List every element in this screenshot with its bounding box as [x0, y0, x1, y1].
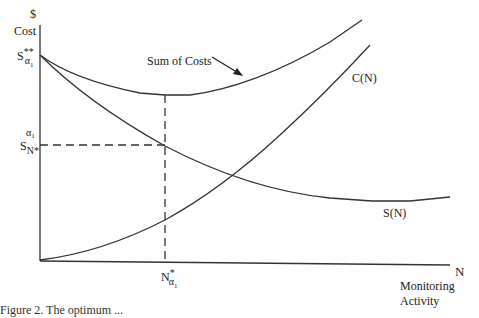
c-n-label: C(N) [352, 72, 377, 84]
x-axis-label: N [455, 265, 464, 278]
arrow-head-icon [233, 68, 243, 76]
y-tick-s-n-star-alpha: α1 [26, 128, 35, 138]
x-axis-desc-line1: Monitoring [400, 280, 455, 292]
c-n-curve [40, 45, 370, 260]
s-n-curve [40, 55, 450, 201]
y-axis-label: Cost [14, 25, 36, 37]
y-tick-s-double-star: S**α1 [17, 50, 33, 62]
x-tick-n-star: N*α1 [161, 271, 177, 283]
s-n-label: S(N) [383, 207, 406, 219]
sum-of-costs-label: Sum of Costs [147, 55, 212, 67]
figure-caption: Figure 2. The optimum ... [0, 303, 123, 318]
y-unit-label: $ [30, 8, 36, 20]
y-tick-s-n-star: SN* [20, 140, 39, 152]
x-axis [40, 261, 450, 265]
x-axis-desc-line2: Activity [400, 295, 439, 307]
